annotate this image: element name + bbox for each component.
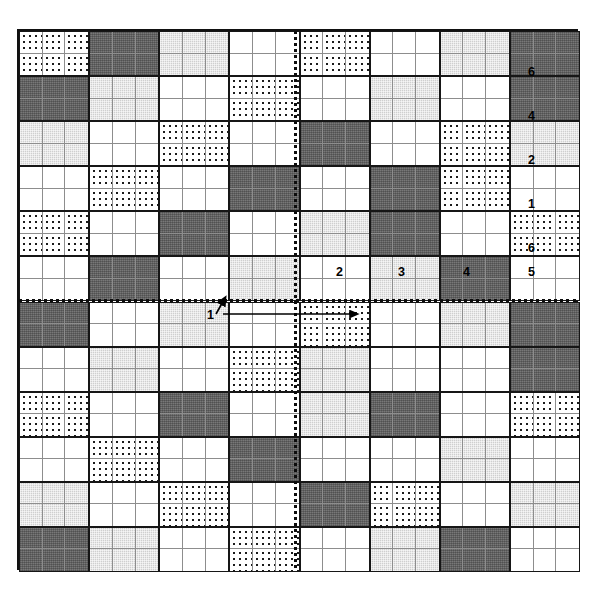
- lattice-block[interactable]: [440, 302, 510, 347]
- lattice-block[interactable]: [300, 437, 370, 482]
- lattice-block[interactable]: [159, 166, 229, 211]
- lattice-block[interactable]: [19, 121, 89, 166]
- lattice-block[interactable]: [370, 392, 440, 437]
- lattice-block[interactable]: [440, 76, 510, 121]
- lattice-block[interactable]: [510, 256, 580, 301]
- lattice-block[interactable]: [300, 302, 370, 347]
- lattice-block[interactable]: [440, 121, 510, 166]
- lattice-block[interactable]: [159, 347, 229, 392]
- lattice-block[interactable]: [19, 527, 89, 572]
- lattice-block[interactable]: [229, 211, 299, 256]
- lattice-cell: [323, 393, 346, 415]
- lattice-block[interactable]: [89, 76, 159, 121]
- lattice-block[interactable]: [229, 437, 299, 482]
- lattice-block[interactable]: [510, 76, 580, 121]
- lattice-block[interactable]: [89, 347, 159, 392]
- lattice-block[interactable]: [440, 31, 510, 76]
- lattice-block[interactable]: [440, 437, 510, 482]
- lattice-block[interactable]: [510, 482, 580, 527]
- lattice-cell: [534, 32, 557, 54]
- lattice-block[interactable]: [229, 347, 299, 392]
- lattice-block[interactable]: [89, 211, 159, 256]
- lattice-grid[interactable]: [17, 29, 578, 570]
- lattice-block[interactable]: [89, 166, 159, 211]
- lattice-block[interactable]: [229, 482, 299, 527]
- lattice-block[interactable]: [159, 211, 229, 256]
- lattice-block[interactable]: [510, 211, 580, 256]
- lattice-block[interactable]: [159, 392, 229, 437]
- lattice-block[interactable]: [440, 211, 510, 256]
- lattice-block[interactable]: [300, 256, 370, 301]
- lattice-block[interactable]: [370, 527, 440, 572]
- lattice-block[interactable]: [300, 347, 370, 392]
- lattice-block[interactable]: [229, 31, 299, 76]
- lattice-block[interactable]: [300, 121, 370, 166]
- lattice-block[interactable]: [370, 76, 440, 121]
- lattice-block[interactable]: [159, 31, 229, 76]
- lattice-block[interactable]: [510, 31, 580, 76]
- lattice-block[interactable]: [89, 527, 159, 572]
- lattice-block[interactable]: [510, 527, 580, 572]
- lattice-block[interactable]: [300, 76, 370, 121]
- lattice-block[interactable]: [159, 256, 229, 301]
- lattice-block[interactable]: [370, 166, 440, 211]
- lattice-block[interactable]: [440, 482, 510, 527]
- lattice-block[interactable]: [510, 392, 580, 437]
- lattice-block[interactable]: [159, 482, 229, 527]
- lattice-block[interactable]: [300, 527, 370, 572]
- lattice-block[interactable]: [300, 392, 370, 437]
- lattice-block[interactable]: [89, 31, 159, 76]
- lattice-block[interactable]: [510, 121, 580, 166]
- lattice-block[interactable]: [89, 437, 159, 482]
- lattice-cell: [416, 54, 439, 76]
- lattice-block[interactable]: [19, 482, 89, 527]
- lattice-block[interactable]: [89, 302, 159, 347]
- lattice-block[interactable]: [510, 347, 580, 392]
- lattice-block[interactable]: [159, 437, 229, 482]
- lattice-block[interactable]: [89, 121, 159, 166]
- lattice-block[interactable]: [159, 121, 229, 166]
- lattice-block[interactable]: [19, 166, 89, 211]
- lattice-block[interactable]: [300, 482, 370, 527]
- lattice-block[interactable]: [440, 392, 510, 437]
- lattice-block[interactable]: [89, 256, 159, 301]
- lattice-block[interactable]: [229, 121, 299, 166]
- lattice-block[interactable]: [300, 211, 370, 256]
- lattice-block[interactable]: [440, 347, 510, 392]
- lattice-block[interactable]: [440, 256, 510, 301]
- lattice-block[interactable]: [370, 482, 440, 527]
- lattice-block[interactable]: [229, 76, 299, 121]
- lattice-block[interactable]: [440, 166, 510, 211]
- lattice-block[interactable]: [89, 392, 159, 437]
- lattice-block[interactable]: [19, 256, 89, 301]
- lattice-block[interactable]: [19, 302, 89, 347]
- lattice-block[interactable]: [159, 527, 229, 572]
- lattice-block[interactable]: [19, 76, 89, 121]
- lattice-block[interactable]: [370, 347, 440, 392]
- lattice-block[interactable]: [19, 347, 89, 392]
- lattice-block[interactable]: [89, 482, 159, 527]
- lattice-block[interactable]: [510, 166, 580, 211]
- lattice-block[interactable]: [370, 211, 440, 256]
- lattice-block[interactable]: [300, 31, 370, 76]
- lattice-block[interactable]: [370, 302, 440, 347]
- lattice-block[interactable]: [229, 302, 299, 347]
- lattice-block[interactable]: [159, 76, 229, 121]
- lattice-block[interactable]: [370, 437, 440, 482]
- lattice-block[interactable]: [229, 527, 299, 572]
- lattice-block[interactable]: [229, 392, 299, 437]
- lattice-block[interactable]: [300, 166, 370, 211]
- lattice-block[interactable]: [370, 31, 440, 76]
- lattice-block[interactable]: [19, 31, 89, 76]
- lattice-block[interactable]: [19, 392, 89, 437]
- lattice-block[interactable]: [440, 527, 510, 572]
- lattice-block[interactable]: [159, 302, 229, 347]
- lattice-block[interactable]: [229, 166, 299, 211]
- lattice-block[interactable]: [19, 211, 89, 256]
- lattice-block[interactable]: [19, 437, 89, 482]
- lattice-block[interactable]: [370, 121, 440, 166]
- lattice-block[interactable]: [510, 437, 580, 482]
- lattice-block[interactable]: [510, 302, 580, 347]
- lattice-block[interactable]: [229, 256, 299, 301]
- lattice-cell: [301, 348, 324, 370]
